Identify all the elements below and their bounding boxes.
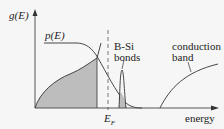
y-axis-arrow-icon — [33, 9, 38, 16]
conduction-pointer — [188, 62, 191, 72]
fermi-subscript: F — [111, 119, 115, 127]
conduction-band-curve — [160, 64, 218, 108]
x-axis-label: energy — [185, 113, 215, 124]
y-axis-label: g(E) — [9, 10, 29, 21]
valence-band-fill — [35, 58, 97, 108]
conduction-label-line2: band — [172, 52, 193, 63]
occupation-curve-label: p(E) — [45, 30, 65, 41]
x-axis-arrow-icon — [211, 106, 219, 111]
fermi-level-label: EF — [104, 113, 115, 129]
density-of-states-diagram: g(E) p(E) B-Si bonds conduction band ene… — [0, 0, 224, 129]
bsi-label-line2: bonds — [114, 52, 140, 63]
fermi-symbol: E — [104, 112, 111, 124]
diagram-canvas — [0, 0, 224, 129]
